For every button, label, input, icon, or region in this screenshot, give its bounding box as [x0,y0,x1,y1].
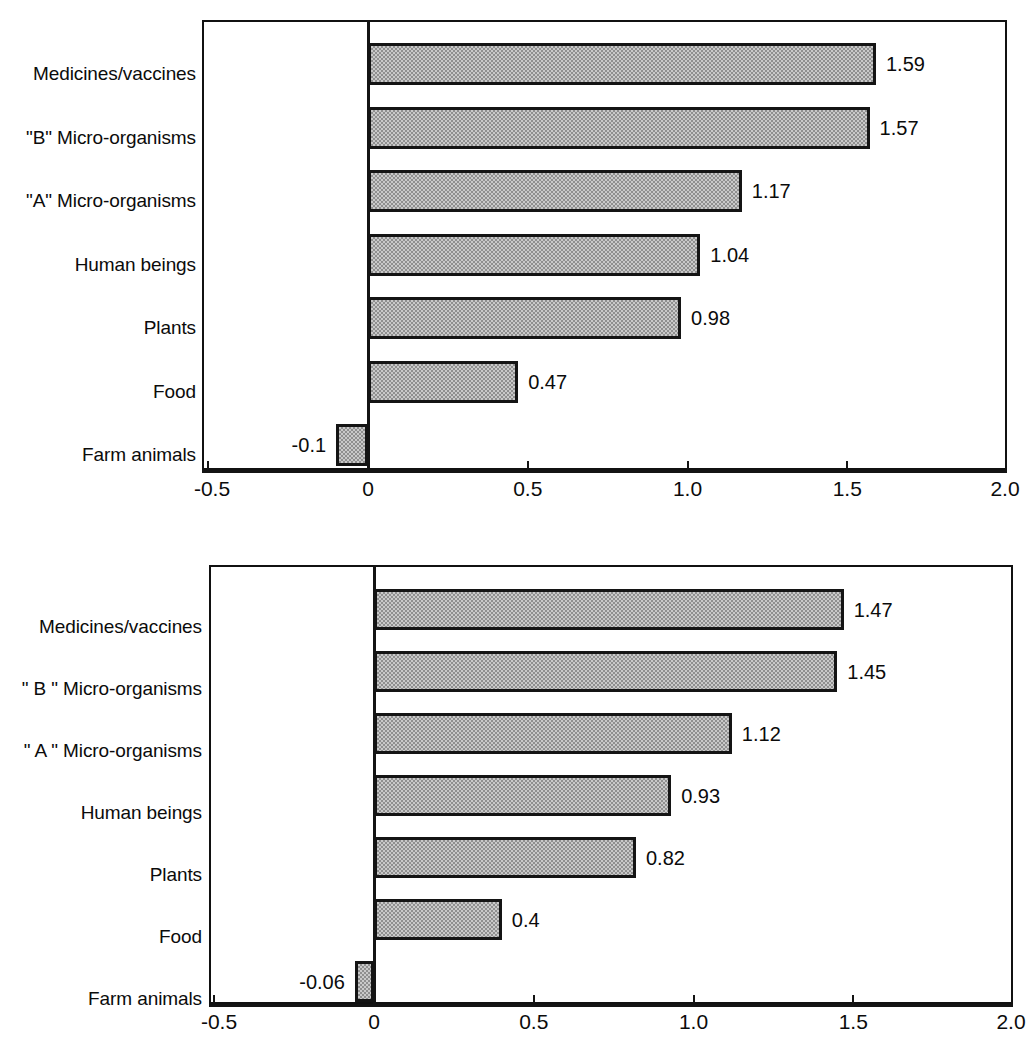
bar-value-label: 1.45 [847,662,886,682]
category-label: Food [159,927,202,946]
category-label: Medicines/vaccines [33,64,196,83]
bar-value-label: 0.4 [512,910,540,930]
bar [374,713,732,754]
x-axis-tick-label: 2.0 [996,1011,1025,1032]
bar-chart-top: 1.59Medicines/vaccines1.57"B" Micro-orga… [0,0,1025,520]
x-axis-tick-label: 0.5 [513,478,542,499]
bar-value-label: 1.12 [742,724,781,744]
x-axis-tick [527,461,529,470]
category-label: Plants [144,318,196,337]
bar-value-label: 1.59 [886,54,925,74]
x-axis-tick-label: 1.0 [679,1011,708,1032]
category-label: Medicines/vaccines [39,617,202,636]
bar-value-label: -0.1 [292,435,326,455]
bar-value-label: 1.17 [752,181,791,201]
bar-chart-bottom: 1.47Medicines/vaccines1.45" B " Micro-or… [0,545,1025,1050]
x-axis-line [209,1004,1013,1007]
category-label: " A " Micro-organisms [24,741,202,760]
x-axis-tick [373,995,375,1004]
zero-axis-line [373,565,376,1004]
x-axis-tick [846,461,848,470]
bar-value-label: 0.93 [681,786,720,806]
bar [336,424,368,466]
bar-value-label: 1.04 [710,245,749,265]
bar [374,775,671,816]
bar-value-label: 0.82 [646,848,685,868]
category-label: "B" Micro-organisms [26,128,196,147]
bar [374,899,502,940]
category-label: Food [153,382,196,401]
bar [368,43,876,85]
x-axis-tick-label: 1.0 [673,478,702,499]
bar [374,589,844,630]
bar [374,651,837,692]
bar [368,234,700,276]
category-label: Farm animals [82,445,196,464]
x-axis-tick [852,995,854,1004]
category-label: "A" Micro-organisms [26,191,196,210]
bar-value-label: -0.06 [299,972,345,992]
x-axis-tick [213,995,215,1004]
bar-value-label: 0.98 [691,308,730,328]
x-axis-tick-label: 0.5 [519,1011,548,1032]
x-axis-tick-label: 2.0 [990,478,1019,499]
x-axis-tick-label: 1.5 [839,1011,868,1032]
bar-value-label: 1.57 [880,118,919,138]
zero-axis-line [367,20,370,470]
bar [368,107,870,149]
x-axis-tick [207,461,209,470]
bar-value-label: 0.47 [528,372,567,392]
category-label: " B " Micro-organisms [22,679,202,698]
bar [374,837,636,878]
bar [368,361,518,403]
x-axis-tick-label: -0.5 [201,1011,237,1032]
x-axis-tick-label: 1.5 [833,478,862,499]
x-axis-tick-label: 0 [362,478,374,499]
x-axis-line [202,470,1007,473]
category-label: Human beings [81,803,202,822]
x-axis-tick [533,995,535,1004]
x-axis-tick-label: -0.5 [194,478,230,499]
bar-value-label: 1.47 [854,600,893,620]
x-axis-tick [367,461,369,470]
x-axis-tick [687,461,689,470]
category-label: Human beings [75,255,196,274]
category-label: Farm animals [88,989,202,1008]
bar [368,297,681,339]
x-axis-tick [693,995,695,1004]
x-axis-tick-label: 0 [368,1011,380,1032]
bar [355,961,374,1002]
bar [368,170,742,212]
category-label: Plants [150,865,202,884]
